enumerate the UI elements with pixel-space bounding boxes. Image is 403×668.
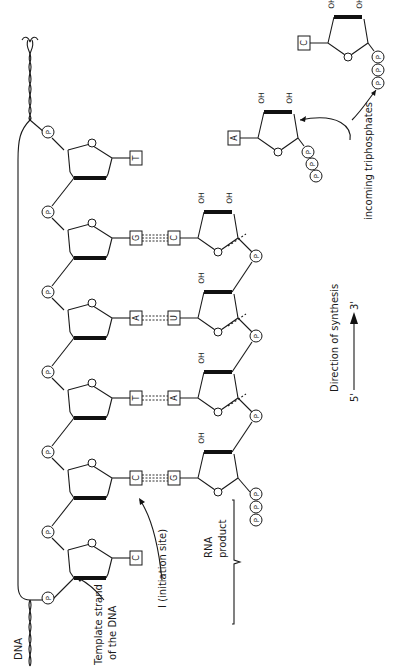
dna-label: DNA bbox=[13, 638, 24, 660]
template-label-2: of the DNA bbox=[107, 605, 118, 660]
svg-text:P: P bbox=[45, 370, 53, 374]
svg-text:U: U bbox=[170, 315, 179, 321]
template-nucleotide-6: C bbox=[68, 539, 142, 578]
rna-5prime-triphosphate: P P P bbox=[250, 488, 262, 526]
svg-text:P: P bbox=[305, 150, 313, 154]
three-prime-label: 3' bbox=[349, 301, 360, 310]
svg-text:P: P bbox=[313, 174, 321, 178]
template-nucleotide-3: A bbox=[68, 299, 142, 338]
svg-text:P: P bbox=[309, 162, 317, 166]
rna-label: RNA bbox=[203, 537, 214, 558]
svg-text:OH: OH bbox=[197, 432, 206, 444]
svg-text:P: P bbox=[253, 254, 261, 258]
svg-text:OH: OH bbox=[197, 352, 206, 364]
svg-text:OH: OH bbox=[225, 192, 234, 204]
template-nucleotide-4: T bbox=[68, 379, 142, 418]
hydrogen-bonds bbox=[142, 235, 168, 481]
transcription-diagram: P P P P P P P T G bbox=[0, 0, 403, 668]
svg-text:P: P bbox=[45, 130, 53, 134]
dna-helix-bottom bbox=[29, 600, 31, 666]
product-label: product bbox=[217, 519, 228, 558]
template-backbone: P P P P P P P bbox=[30, 120, 74, 604]
direction-label: Direction of synthesis bbox=[329, 284, 340, 392]
svg-text:P: P bbox=[253, 334, 261, 338]
template-nucleotide-5: C bbox=[68, 459, 142, 498]
svg-text:P: P bbox=[45, 450, 53, 454]
svg-text:G: G bbox=[132, 235, 141, 241]
coding-strand-loop bbox=[18, 120, 30, 600]
svg-text:P: P bbox=[375, 55, 383, 59]
svg-text:OH: OH bbox=[257, 92, 266, 104]
svg-text:OH: OH bbox=[197, 192, 206, 204]
svg-text:P: P bbox=[375, 81, 383, 85]
rna-nucleotide-3: U OH P bbox=[168, 272, 262, 372]
template-sugars bbox=[68, 139, 112, 178]
rna-nucleotide-1: G OH bbox=[168, 432, 250, 496]
svg-text:C: C bbox=[300, 40, 309, 46]
svg-text:OH: OH bbox=[355, 0, 364, 9]
svg-text:OH: OH bbox=[327, 0, 336, 9]
svg-text:P: P bbox=[253, 414, 261, 418]
svg-text:P: P bbox=[45, 210, 53, 214]
svg-text:OH: OH bbox=[197, 272, 206, 284]
svg-text:P: P bbox=[375, 68, 383, 72]
direction-arrow bbox=[350, 312, 358, 390]
svg-text:P: P bbox=[45, 596, 53, 600]
template-nucleotide-2: G bbox=[68, 219, 142, 258]
svg-text:C: C bbox=[132, 475, 141, 481]
svg-text:P: P bbox=[45, 530, 53, 534]
incoming-nucleotide-c: C OH OH P P P bbox=[298, 0, 384, 89]
svg-text:T: T bbox=[132, 155, 141, 161]
svg-text:C: C bbox=[132, 555, 141, 561]
rna-nucleotide-4: C OH OH P bbox=[168, 192, 262, 292]
dna-helix-top bbox=[22, 37, 38, 120]
svg-text:C: C bbox=[170, 235, 179, 241]
svg-text:OH: OH bbox=[285, 92, 294, 104]
svg-text:A: A bbox=[132, 315, 141, 321]
diagram-canvas: P P P P P P P T G bbox=[0, 0, 403, 668]
template-nucleotide-1: T bbox=[112, 151, 142, 165]
incoming-triphosphates-label: incoming triphosphates bbox=[363, 102, 374, 220]
svg-text:P: P bbox=[45, 290, 53, 294]
rna-nucleotide-2: A OH P bbox=[168, 352, 262, 452]
svg-text:P: P bbox=[253, 505, 261, 509]
rna-product-brace bbox=[232, 500, 240, 624]
svg-text:P: P bbox=[253, 518, 261, 522]
svg-text:P: P bbox=[253, 492, 261, 496]
svg-text:A: A bbox=[230, 135, 239, 141]
incoming-nucleotide-a: A OH OH P P P bbox=[228, 92, 322, 182]
svg-text:T: T bbox=[132, 395, 141, 401]
svg-text:A: A bbox=[170, 395, 179, 401]
template-label-1: Template strand bbox=[93, 584, 104, 666]
svg-text:G: G bbox=[170, 475, 179, 481]
five-prime-label: 5' bbox=[349, 393, 360, 402]
initiation-site-label: I (initiation site) bbox=[157, 529, 168, 608]
